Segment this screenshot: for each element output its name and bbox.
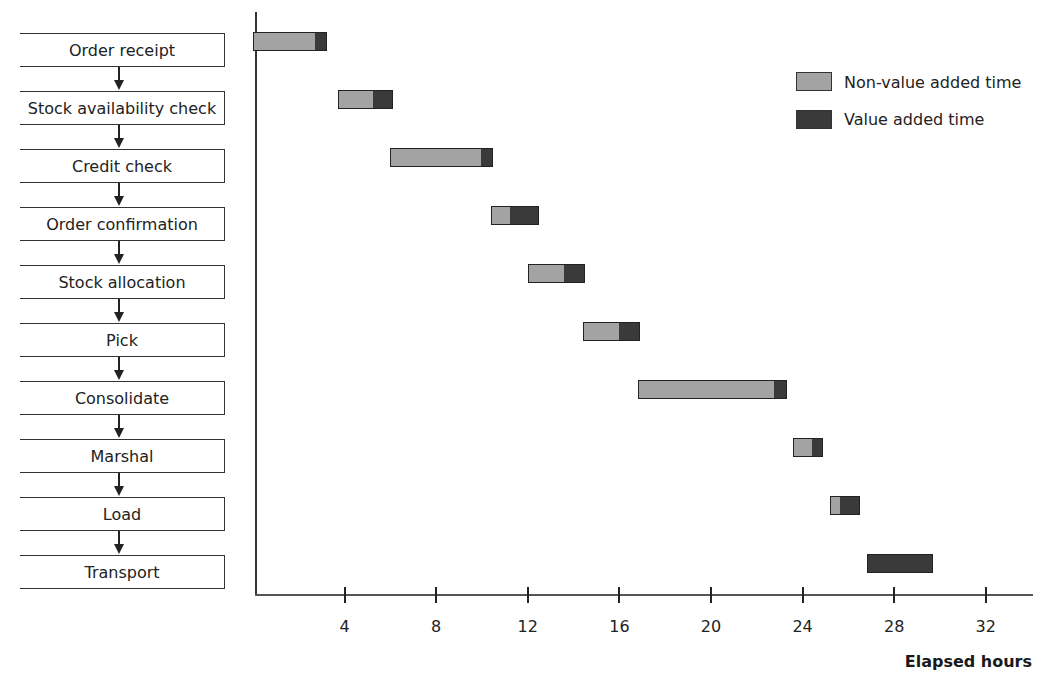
segment-value-added [812,439,823,456]
bar-stock-allocation [528,264,585,283]
bar-order-confirmation [491,206,539,225]
flow-arrow-icon [118,241,120,255]
x-tick-label: 16 [599,617,639,636]
arrowhead-icon [114,138,124,148]
x-axis-label: Elapsed hours [880,652,1032,671]
segment-value-added [315,33,326,50]
legend-swatch-va [796,110,832,129]
process-step-box: Marshal [20,439,225,473]
x-tick [527,587,529,603]
y-axis-line [255,12,257,595]
arrowhead-icon [114,544,124,554]
legend-label-nva: Non-value added time [844,73,1021,92]
segment-non-value-added [831,497,840,514]
process-step-box: Stock allocation [20,265,225,299]
flow-arrow-icon [118,183,120,197]
x-tick [344,587,346,603]
bar-pick [583,322,640,341]
segment-value-added [510,207,539,224]
process-step-box: Order receipt [20,33,225,67]
segment-value-added [373,91,392,108]
x-tick-label: 28 [874,617,914,636]
x-tick [710,587,712,603]
flow-arrow-icon [118,415,120,429]
segment-non-value-added [391,149,481,166]
x-tick-label: 8 [416,617,456,636]
x-tick [435,587,437,603]
segment-value-added [481,149,492,166]
bar-credit-check [390,148,493,167]
process-step-box: Transport [20,555,225,589]
segment-non-value-added [584,323,619,340]
x-tick-label: 20 [691,617,731,636]
process-step-box: Load [20,497,225,531]
arrowhead-icon [114,80,124,90]
bar-marshal [793,438,823,457]
segment-value-added [564,265,584,282]
x-tick [893,587,895,603]
segment-value-added [774,381,785,398]
flow-arrow-icon [118,357,120,371]
flow-arrow-icon [118,67,120,81]
segment-value-added [868,555,932,572]
segment-non-value-added [339,91,373,108]
x-tick [802,587,804,603]
segment-non-value-added [529,265,564,282]
legend-swatch-nva [796,72,832,91]
process-step-box: Consolidate [20,381,225,415]
process-step-box: Credit check [20,149,225,183]
segment-value-added [840,497,859,514]
arrowhead-icon [114,254,124,264]
x-tick-label: 4 [325,617,365,636]
bar-stock-availability-check [338,90,393,109]
bar-order-receipt [253,32,327,51]
segment-value-added [619,323,639,340]
flow-arrow-icon [118,299,120,313]
segment-non-value-added [794,439,811,456]
process-step-box: Order confirmation [20,207,225,241]
arrowhead-icon [114,428,124,438]
x-axis-line [255,594,1033,596]
x-tick [618,587,620,603]
process-step-box: Stock availability check [20,91,225,125]
arrowhead-icon [114,486,124,496]
process-step-box: Pick [20,323,225,357]
flow-arrow-icon [118,125,120,139]
x-tick-label: 24 [783,617,823,636]
legend-label-va: Value added time [844,110,984,129]
bar-load [830,496,860,515]
x-tick-label: 32 [966,617,1006,636]
arrowhead-icon [114,370,124,380]
segment-non-value-added [639,381,775,398]
flow-arrow-icon [118,531,120,545]
segment-non-value-added [492,207,510,224]
bar-transport [867,554,933,573]
x-tick-label: 12 [508,617,548,636]
flow-arrow-icon [118,473,120,487]
bar-consolidate [638,380,787,399]
arrowhead-icon [114,196,124,206]
segment-non-value-added [254,33,315,50]
x-tick [985,587,987,603]
arrowhead-icon [114,312,124,322]
